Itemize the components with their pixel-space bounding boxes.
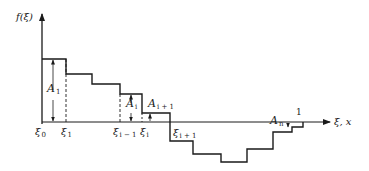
ai-plus-1-label: Ai + 1 — [148, 98, 174, 111]
xi-symbol: ξ — [61, 126, 67, 137]
area-subscript: n — [279, 120, 284, 128]
y-axis-label: f(ξ) — [16, 12, 33, 22]
area-symbol: A — [126, 97, 134, 110]
xi-0-label: ξ0 — [35, 127, 46, 139]
xi-subscript: i + 1 — [180, 132, 197, 140]
x-axis-label: ξ, x — [334, 117, 352, 127]
ai-label: Ai — [126, 98, 137, 111]
xi-i-minus-1-label: ξi − 1 — [113, 127, 137, 139]
xi-i-plus-1-label: ξi + 1 — [173, 128, 197, 140]
area-symbol: A — [270, 114, 278, 127]
area-subscript: 1 — [56, 88, 60, 96]
a1-label: A1 — [47, 83, 60, 96]
xi-symbol: ξ — [140, 126, 146, 137]
xi-1-label: ξ1 — [61, 127, 72, 139]
xi-i-label: ξi — [140, 127, 149, 139]
area-symbol: A — [47, 82, 55, 95]
xi-subscript: 0 — [42, 131, 46, 139]
area-subscript: i + 1 — [157, 103, 174, 111]
xi-subscript: 1 — [68, 131, 72, 139]
step-function-diagram: f(ξ) ξ, x ξ0 ξ1 ξi − 1 ξi ξi + 1 A1 Ai A… — [0, 0, 369, 171]
unit-label: 1 — [296, 108, 302, 117]
xi-subscript: i − 1 — [120, 131, 137, 139]
xi-subscript: i — [147, 131, 149, 139]
xi-symbol: ξ — [173, 127, 179, 138]
area-subscript: i — [135, 103, 137, 111]
xi-symbol: ξ — [113, 126, 119, 137]
an-label: An — [270, 115, 283, 128]
xi-symbol: ξ — [35, 126, 41, 137]
area-symbol: A — [148, 97, 156, 110]
